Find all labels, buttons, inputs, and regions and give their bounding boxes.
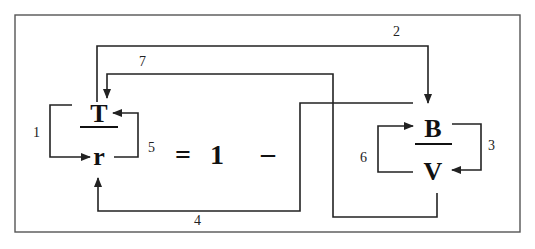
label-1: 1 xyxy=(33,125,40,140)
arrow-3-path xyxy=(452,124,481,170)
variable-V: V xyxy=(424,157,443,186)
label-6: 6 xyxy=(360,150,367,165)
label-2: 2 xyxy=(393,24,400,39)
arrow-5-path xyxy=(113,113,138,157)
variable-r: r xyxy=(93,142,105,171)
flow-diagram: T r = 1 – B V 1 2 3 4 5 6 7 xyxy=(0,0,535,249)
label-3: 3 xyxy=(488,138,495,153)
number-one: 1 xyxy=(210,139,224,170)
minus-sign: – xyxy=(260,137,276,168)
variable-B: B xyxy=(424,114,441,143)
variable-T: T xyxy=(90,99,107,128)
label-5: 5 xyxy=(148,140,155,155)
label-7: 7 xyxy=(139,54,146,69)
label-4: 4 xyxy=(194,213,201,228)
equals-sign: = xyxy=(175,139,191,170)
arrow-6-path xyxy=(378,126,413,172)
arrow-1-path xyxy=(50,105,90,157)
